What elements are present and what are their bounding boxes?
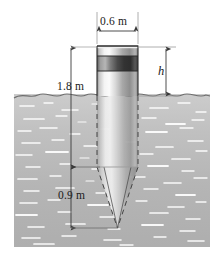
cone-height-label: 0.9 m	[58, 190, 85, 202]
buoy-above-water	[97, 46, 138, 96]
diagram-canvas	[0, 0, 224, 258]
freeboard-dimension	[138, 47, 176, 96]
freeboard-label: h	[158, 65, 164, 78]
width-label: 0.6 m	[100, 16, 127, 28]
submerged-depth-label: 1.8 m	[57, 81, 84, 93]
buoy-diagram: 0.6 m 1.8 m 0.9 m h	[0, 0, 224, 258]
